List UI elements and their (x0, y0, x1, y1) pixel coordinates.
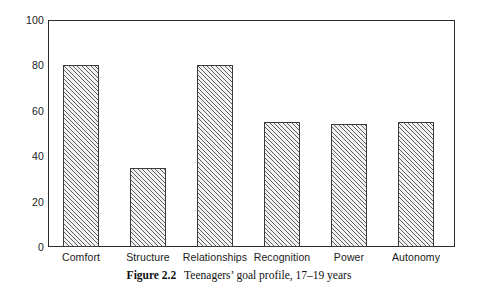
x-tick-label-autonomy: Autonomy (380, 250, 452, 264)
caption-text: Teenagers’ goal profile, 17–19 years (184, 269, 351, 281)
bar-comfort (63, 65, 99, 247)
x-tick-label-structure: Structure (112, 250, 184, 264)
x-tick-label-relationships: Relationships (179, 250, 251, 264)
y-tick-label-100: 100 (0, 15, 44, 25)
y-tick-label-80: 80 (0, 60, 44, 70)
y-tick-label-40: 40 (0, 151, 44, 161)
y-tick-label-20: 20 (0, 197, 44, 207)
caption-figure-word: Figure (127, 269, 159, 281)
y-axis-labels: 100 80 60 40 20 0 (0, 0, 44, 295)
x-tick-label-power: Power (313, 250, 385, 264)
x-tick-label-comfort: Comfort (45, 250, 117, 264)
bars-layer (48, 20, 455, 247)
y-tick-label-0: 0 (0, 242, 44, 252)
bar-structure (130, 168, 166, 247)
x-tick-label-recognition: Recognition (246, 250, 318, 264)
figure-container: 100 80 60 40 20 0 Comfort Structure Rela… (0, 0, 478, 295)
bar-power (331, 124, 367, 247)
bar-autonomy (398, 122, 434, 247)
figure-caption: Figure 2.2 Teenagers’ goal profile, 17–1… (0, 268, 478, 282)
bar-relationships (197, 65, 233, 247)
x-axis-labels: Comfort Structure Relationships Recognit… (48, 250, 455, 266)
bar-recognition (264, 122, 300, 247)
caption-figure-number: 2.2 (162, 269, 176, 281)
y-tick-label-60: 60 (0, 106, 44, 116)
